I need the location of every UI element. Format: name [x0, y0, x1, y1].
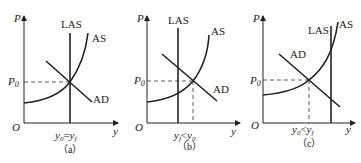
- axis-label-y: y: [230, 125, 236, 137]
- as-label: AS: [211, 25, 225, 37]
- price-label-p0: P0: [133, 74, 145, 88]
- las-label: LAS: [168, 14, 189, 26]
- axis-label-p: P: [13, 12, 21, 24]
- las-label: LAS: [61, 18, 82, 30]
- as-label: AS: [92, 32, 106, 44]
- price-label-p0: P0: [249, 74, 261, 88]
- ad-as-diagram: P y O P0 LAS AS AD y0=yf （a） P y O P0 LA…: [0, 0, 361, 163]
- axis-label-y: y: [345, 123, 351, 135]
- caption-a: （a）: [58, 144, 82, 155]
- ad-label: AD: [93, 93, 109, 105]
- panel-a: P y O P0 LAS AS AD y0=yf （a）: [7, 12, 118, 155]
- ad-label: AD: [290, 48, 306, 60]
- caption-c: （c）: [297, 138, 321, 149]
- x-tick-label: y0=yf: [54, 129, 78, 143]
- caption-b: （b）: [177, 141, 202, 152]
- axis-label-p: P: [252, 12, 260, 24]
- x-tick-label: y0<yf: [291, 123, 315, 137]
- ad-label: AD: [213, 83, 229, 95]
- origin-label: O: [135, 121, 143, 133]
- panel-c: P y O P0 LAS AS AD y0<yf （c）: [249, 12, 355, 149]
- as-curve: [24, 33, 88, 103]
- axis-label-p: P: [136, 12, 144, 24]
- panel-b: P y O P0 LAS AS AD yf<y0 （b）: [133, 12, 240, 152]
- las-label: LAS: [308, 24, 329, 36]
- ad-curve: [162, 54, 217, 101]
- origin-label: O: [251, 119, 259, 131]
- origin-label: O: [12, 121, 20, 133]
- as-label: AS: [339, 18, 353, 30]
- price-label-p0: P0: [7, 75, 19, 89]
- axis-label-y: y: [112, 125, 118, 137]
